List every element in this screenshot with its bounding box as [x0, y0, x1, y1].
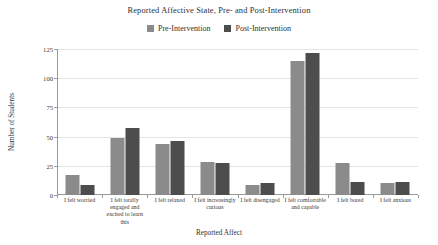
x-axis-category-label: I felt comfortable and capable	[283, 197, 328, 226]
bar-post-intervention	[170, 141, 184, 195]
y-axis-title-text: Number of Students	[8, 93, 16, 151]
bar-post-intervention	[396, 182, 410, 195]
bar-post-intervention	[125, 128, 139, 195]
bar-pre-intervention	[65, 175, 79, 195]
bar-group	[238, 49, 283, 195]
x-axis-category-labels: I felt worriedI felt totally engaged and…	[57, 197, 418, 226]
bar-group	[192, 49, 237, 195]
x-axis-title: Reported Affect	[0, 229, 438, 237]
bar-pre-intervention	[246, 185, 260, 196]
legend-entry-pre-intervention: Pre-Intervention	[147, 24, 210, 33]
legend-label-pre-intervention: Pre-Intervention	[158, 24, 210, 33]
y-axis-tick-label: 100	[43, 75, 53, 82]
x-axis-category-label: I felt relaxed	[147, 197, 192, 226]
bar-group	[57, 49, 102, 195]
bar-groups	[57, 49, 418, 195]
plot-area: 1251007550250	[57, 49, 418, 195]
y-axis-tick-label: 50	[46, 133, 53, 140]
bar-post-intervention	[80, 185, 94, 196]
bar-group	[102, 49, 147, 195]
bar-pre-intervention	[336, 163, 350, 195]
bar-chart-figure: Reported Affective State, Pre- and Post-…	[0, 0, 438, 245]
bar-pre-intervention	[291, 61, 305, 195]
legend-label-post-intervention: Post-Intervention	[235, 24, 291, 33]
x-axis-category-label: I felt disengaged	[238, 197, 283, 226]
bar-post-intervention	[215, 163, 229, 195]
bar-group	[373, 49, 418, 195]
bar-post-intervention	[351, 182, 365, 195]
x-axis-category-label: I felt totally engaged and excited to le…	[102, 197, 147, 226]
bar-pair	[291, 49, 320, 195]
bar-pre-intervention	[155, 144, 169, 195]
bar-pair	[200, 49, 229, 195]
y-axis-tick-label: 25	[46, 162, 53, 169]
bar-pair	[336, 49, 365, 195]
bar-pre-intervention	[110, 138, 124, 195]
x-axis-category-label: I felt worried	[57, 197, 102, 226]
x-axis-category-label: I felt increasingly curious	[192, 197, 237, 226]
y-axis-title: Number of Students	[6, 49, 18, 195]
bar-pre-intervention	[381, 183, 395, 195]
bar-pre-intervention	[200, 162, 214, 195]
x-axis-tick-mark	[418, 195, 419, 198]
bar-group	[283, 49, 328, 195]
bar-pair	[65, 49, 94, 195]
legend-swatch-post-intervention	[224, 25, 231, 32]
bar-group	[147, 49, 192, 195]
legend-entry-post-intervention: Post-Intervention	[224, 24, 291, 33]
bar-pair	[110, 49, 139, 195]
x-axis-category-label: I felt anxious	[373, 197, 418, 226]
bar-pair	[155, 49, 184, 195]
chart-title: Reported Affective State, Pre- and Post-…	[0, 6, 438, 15]
bar-pair	[246, 49, 275, 195]
bar-post-intervention	[306, 53, 320, 195]
y-axis-tick-label: 125	[43, 46, 53, 53]
y-axis-tick-label: 0	[50, 192, 53, 199]
chart-legend: Pre-Intervention Post-Intervention	[0, 24, 438, 33]
legend-swatch-pre-intervention	[147, 25, 154, 32]
bar-group	[328, 49, 373, 195]
y-axis-tick-label: 75	[46, 104, 53, 111]
bar-post-intervention	[261, 183, 275, 195]
bar-pair	[381, 49, 410, 195]
x-axis-category-label: I felt bored	[328, 197, 373, 226]
